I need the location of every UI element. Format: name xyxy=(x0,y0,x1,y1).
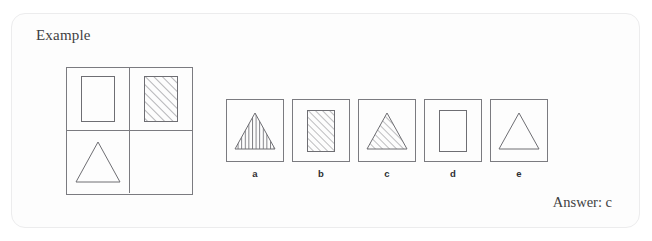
triangle-outline-icon xyxy=(75,141,121,183)
option-b-box[interactable] xyxy=(292,99,350,162)
option-b-label: b xyxy=(318,169,324,179)
option-c-label: c xyxy=(384,169,389,179)
matrix-cell-bottom-right-blank xyxy=(130,131,192,193)
option-e-label: e xyxy=(516,169,521,179)
puzzle-screenshot: Example xyxy=(0,0,652,241)
rectangle-outline-icon xyxy=(81,76,115,122)
option-b[interactable]: b xyxy=(292,99,350,179)
triangle-vertical-hatched-icon xyxy=(234,112,276,150)
triangle-hatched-icon xyxy=(366,112,408,150)
matrix-cell-bottom-left xyxy=(67,131,130,193)
option-c-box[interactable] xyxy=(358,99,416,162)
example-card: Example xyxy=(11,13,640,228)
option-d-label: d xyxy=(450,169,456,179)
rectangle-outline-icon xyxy=(439,110,467,152)
option-a-label: a xyxy=(252,169,257,179)
option-c[interactable]: c xyxy=(358,99,416,179)
answer-text: Answer: c xyxy=(553,194,612,211)
rectangle-hatched-icon xyxy=(144,76,178,122)
rectangle-hatched-icon xyxy=(307,110,335,152)
option-e[interactable]: e xyxy=(490,99,548,179)
option-e-box[interactable] xyxy=(490,99,548,162)
answer-options: a b xyxy=(226,99,548,179)
option-a[interactable]: a xyxy=(226,99,284,179)
page-title: Example xyxy=(36,27,91,44)
matrix-grid xyxy=(66,67,193,195)
option-d[interactable]: d xyxy=(424,99,482,179)
triangle-outline-icon xyxy=(498,112,540,150)
matrix-cell-top-left xyxy=(67,68,130,131)
option-a-box[interactable] xyxy=(226,99,284,162)
matrix-cell-top-right xyxy=(130,68,192,131)
option-d-box[interactable] xyxy=(424,99,482,162)
